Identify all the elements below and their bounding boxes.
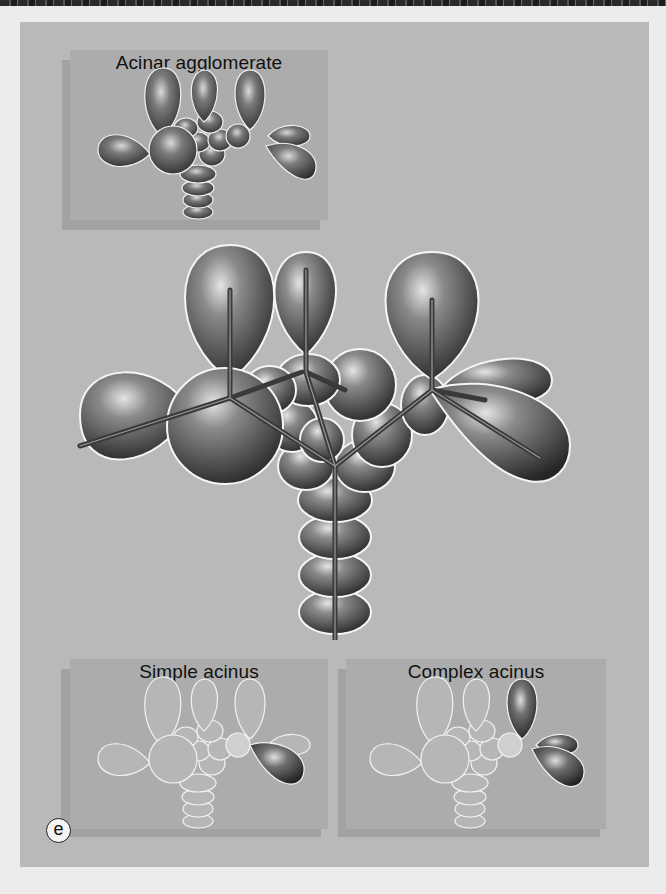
inset-simple-acinus: Simple acinus [70,659,328,829]
inset-complex-acinus: Complex acinus [346,659,606,829]
inset-acinar-agglomerate: Acinar agglomerate [70,50,328,220]
scanned-page-edge [0,0,666,6]
simple-acinus-illustration [70,659,328,829]
panel-label-e: e [46,818,71,843]
highlighted-acini [507,679,584,787]
main-acinar-illustration [70,240,610,640]
branched-duct-acini-diagram [70,240,610,640]
acinar-agglomerate-illustration [70,50,328,220]
complex-acinus-illustration [346,659,606,829]
